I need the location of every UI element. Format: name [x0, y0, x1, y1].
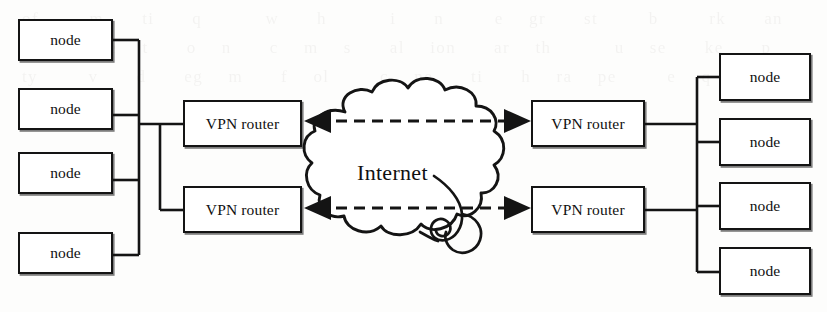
right-node-4-label: node — [750, 262, 781, 280]
left-node-3-label: node — [50, 164, 81, 182]
internet-cloud-label: Internet — [357, 160, 428, 186]
vpn-tunnel-upper-right-arrowhead — [504, 109, 531, 133]
left-node-1[interactable]: node — [18, 19, 113, 61]
right-node-1-label: node — [750, 68, 781, 86]
vpn-tunnel-lower-right-arrowhead — [504, 196, 531, 220]
right-vpn-router-2[interactable]: VPN router — [531, 186, 645, 233]
left-node-4-label: node — [50, 244, 81, 262]
left-node-2-label: node — [50, 100, 81, 118]
left-node-1-label: node — [50, 31, 81, 49]
right-vpn-router-1-label: VPN router — [551, 115, 624, 133]
diagram-wires-layer — [0, 0, 827, 312]
left-vpn-router-2[interactable]: VPN router — [183, 186, 302, 233]
left-node-2[interactable]: node — [18, 88, 113, 130]
right-node-2[interactable]: node — [719, 118, 811, 166]
left-node-4[interactable]: node — [18, 232, 113, 274]
vpn-tunnel-lower-left-arrowhead — [304, 196, 331, 220]
internet-cloud-shape — [304, 78, 504, 234]
left-vpn-router-2-label: VPN router — [206, 201, 279, 219]
right-vpn-router-2-label: VPN router — [551, 201, 624, 219]
right-node-4[interactable]: node — [719, 247, 811, 295]
right-vpn-router-1[interactable]: VPN router — [531, 100, 645, 147]
right-node-2-label: node — [750, 133, 781, 151]
right-node-3-label: node — [750, 197, 781, 215]
right-node-1[interactable]: node — [719, 53, 811, 101]
left-vpn-router-1-label: VPN router — [206, 115, 279, 133]
network-diagram-canvas: of m ti q w h i n e gr st b rk an pl re … — [0, 0, 827, 312]
right-node-3[interactable]: node — [719, 182, 811, 230]
left-node-3[interactable]: node — [18, 152, 113, 194]
left-vpn-router-1[interactable]: VPN router — [183, 100, 302, 147]
